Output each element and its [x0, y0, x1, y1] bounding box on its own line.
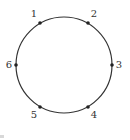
point-label-1: 1	[31, 8, 37, 19]
circle	[16, 17, 112, 113]
points-group	[14, 21, 114, 109]
point-1	[38, 21, 42, 25]
point-2	[86, 21, 90, 25]
labels-group: 123456	[6, 8, 122, 120]
point-label-4: 4	[91, 109, 97, 120]
circle-diagram: 123456	[0, 0, 130, 140]
point-label-2: 2	[91, 8, 97, 19]
point-label-5: 5	[31, 109, 37, 120]
point-5	[38, 105, 42, 109]
point-4	[86, 105, 90, 109]
point-label-3: 3	[116, 59, 122, 70]
point-label-6: 6	[6, 59, 12, 70]
point-6	[14, 63, 18, 67]
point-3	[110, 63, 114, 67]
corner-artifact	[0, 135, 4, 138]
